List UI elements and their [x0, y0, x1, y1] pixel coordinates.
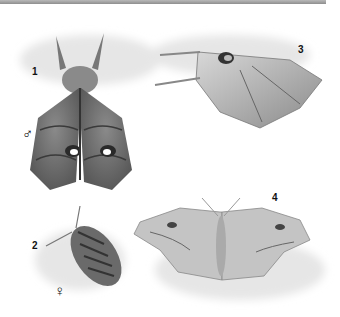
female-symbol: ♀	[54, 283, 65, 298]
specimen-number-1: 1	[32, 66, 38, 77]
specimen-number-2: 2	[32, 240, 38, 251]
specimen-number-4: 4	[272, 192, 278, 203]
specimen-number-3: 3	[298, 44, 304, 55]
moth-plate-illustration	[0, 0, 340, 317]
male-symbol: ♂	[22, 126, 33, 141]
